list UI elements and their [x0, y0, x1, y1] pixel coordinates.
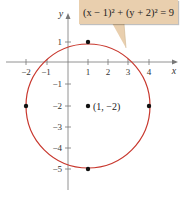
point-right — [147, 104, 151, 108]
x-tick-label: 1 — [86, 67, 91, 77]
x-tick-label: −2 — [21, 67, 31, 77]
point-top — [86, 40, 90, 44]
center-label: (1, −2) — [93, 101, 120, 113]
y-tick-label: −4 — [52, 143, 62, 153]
equation-callout: (x − 1)² + (y + 2)² = 9 — [79, 0, 178, 24]
x-tick-label: 4 — [147, 67, 152, 77]
callout-pointer — [112, 23, 126, 48]
point-center — [86, 104, 90, 108]
y-tick-label: −3 — [52, 122, 62, 132]
y-tick-label: −2 — [52, 101, 62, 111]
x-axis-label: x — [171, 65, 177, 76]
y-tick-label: −5 — [52, 164, 62, 174]
equation-text: (x − 1)² + (y + 2)² = 9 — [83, 7, 174, 18]
y-tick-label: 1 — [58, 37, 63, 47]
y-tick-label: −1 — [52, 79, 62, 89]
circle-graph: −2 −1 1 2 3 4 1 −1 −2 −3 −4 −5 x y (1, −… — [0, 0, 187, 204]
y-axis-label: y — [58, 8, 64, 19]
x-tick-label: −1 — [41, 67, 51, 77]
point-bottom — [86, 167, 90, 171]
y-axis-arrow-icon — [66, 13, 71, 19]
point-left — [24, 104, 28, 108]
marked-points — [24, 40, 151, 171]
x-axis-arrow-icon — [172, 60, 178, 65]
x-tick-label: 3 — [126, 67, 131, 77]
x-tick-label: 2 — [106, 67, 111, 77]
